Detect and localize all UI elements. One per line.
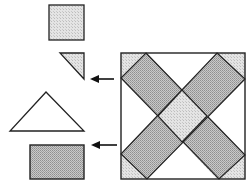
small-triangle-piece: [60, 53, 84, 79]
large-triangle-piece: [10, 92, 84, 131]
quilt-block: [121, 53, 245, 179]
arrow-left-icon: [91, 141, 117, 149]
small-square-piece: [49, 5, 84, 40]
quilt-diagram: [0, 0, 248, 188]
rectangle-piece: [30, 145, 84, 179]
arrow-left-icon: [90, 75, 114, 83]
